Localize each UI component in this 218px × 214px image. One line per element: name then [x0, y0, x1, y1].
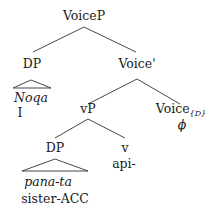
- node-voice-bar: Voice': [118, 57, 155, 71]
- gloss-i: I: [18, 106, 23, 120]
- word-pana-ta: pana-ta: [24, 175, 72, 189]
- node-dp-object: DP: [46, 141, 64, 155]
- word-phi: ϕ: [178, 118, 187, 132]
- node-voicep: VoiceP: [63, 9, 105, 23]
- node-dp-subject: DP: [23, 57, 41, 71]
- node-vp: vP: [80, 102, 95, 116]
- word-api: api-: [112, 157, 136, 171]
- word-noqa: Noqa: [14, 91, 48, 105]
- node-v: v: [121, 141, 128, 155]
- gloss-sister-acc: sister-ACC: [21, 192, 89, 206]
